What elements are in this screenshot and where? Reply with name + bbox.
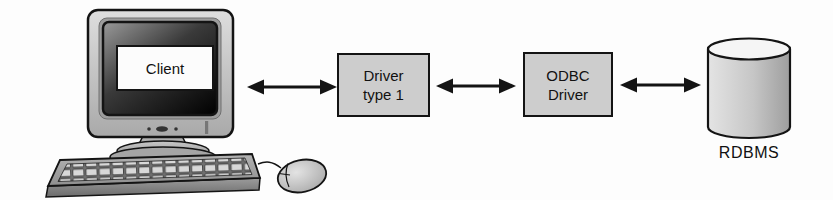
arrow-odbc-rdbms bbox=[620, 78, 701, 93]
mouse bbox=[258, 155, 329, 196]
driver-type1-label-line2: type 1 bbox=[363, 85, 404, 104]
database-cylinder-icon bbox=[708, 39, 790, 139]
odbc-driver-label-line1: ODBC bbox=[546, 66, 589, 85]
driver-type1-label-line1: Driver bbox=[364, 66, 404, 85]
client-computer-illustration bbox=[46, 10, 329, 197]
arrow-client-driver bbox=[247, 80, 337, 95]
mouse-cable bbox=[258, 162, 281, 168]
cylinder-top bbox=[708, 39, 790, 60]
driver-architecture-diagram: Client Driver type 1 ODBC Driver RDBMS bbox=[0, 0, 833, 200]
keyboard bbox=[46, 154, 260, 197]
odbc-driver-label-line2: Driver bbox=[548, 85, 588, 104]
client-node-label: Client bbox=[116, 45, 214, 91]
odbc-driver-node: ODBC Driver bbox=[523, 52, 613, 117]
rdbms-node-label: RDBMS bbox=[700, 144, 798, 162]
cylinder-body bbox=[708, 49, 790, 138]
arrow-driver-odbc bbox=[436, 79, 516, 94]
driver-type1-node: Driver type 1 bbox=[337, 53, 430, 117]
mouse-body bbox=[275, 155, 330, 196]
